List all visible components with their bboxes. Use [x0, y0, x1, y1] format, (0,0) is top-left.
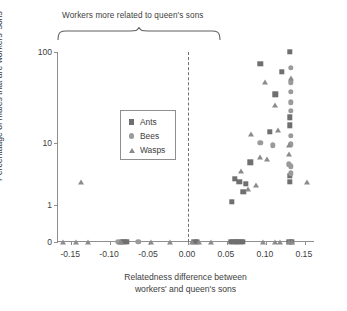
data-point-ants [243, 181, 248, 186]
y-tick-label-0: 0 [28, 237, 52, 247]
data-point-wasps [264, 156, 270, 161]
x-tick-0.15 [305, 241, 306, 245]
data-point-ants [229, 199, 234, 204]
y-tick-label-100: 100 [28, 47, 52, 57]
x-tick-label-0.10: 0.10 [257, 249, 274, 259]
y-tick-0 [54, 242, 58, 243]
data-point-wasps [288, 75, 294, 80]
data-point-ants [287, 115, 292, 120]
bracket-annotation-label: Workers more related to queen's sons [62, 11, 204, 20]
data-point-wasps [60, 240, 66, 245]
data-point-ants [267, 129, 272, 134]
x-tick-0.10 [266, 241, 267, 245]
data-point-wasps [78, 179, 84, 184]
x-tick-label-0.00: 0.00 [179, 249, 196, 259]
legend-item-ants: Ants [127, 115, 175, 129]
legend-item-wasps: Wasps [127, 143, 175, 157]
square-marker-icon [127, 119, 136, 124]
data-point-wasps [262, 80, 268, 85]
figure-scatter-plot: Workers more related to queen's sons Ant… [0, 0, 347, 311]
data-point-wasps [253, 183, 259, 188]
data-point-ants [287, 179, 292, 184]
data-point-wasps [208, 240, 214, 245]
data-point-ants [248, 160, 253, 165]
x-tick-label-0.15: 0.15 [295, 249, 312, 259]
plot-background [58, 52, 314, 241]
data-point-wasps [272, 103, 278, 108]
data-point-wasps [118, 240, 124, 245]
data-point-wasps [257, 154, 263, 159]
triangle-marker-icon [127, 148, 136, 153]
legend-item-bees: Bees [127, 129, 175, 143]
y-tick-label-10: 10 [28, 138, 52, 148]
data-point-wasps [260, 240, 266, 245]
data-point-ants [273, 92, 278, 97]
y-tick-10 [54, 143, 58, 144]
x-tick-label--0.15: -0.15 [60, 249, 80, 259]
x-tick--0.10 [110, 241, 111, 245]
data-point-wasps [277, 240, 283, 245]
data-point-wasps [196, 240, 202, 245]
y-tick-label-1: 1 [28, 200, 52, 210]
data-point-wasps [73, 240, 79, 245]
data-point-wasps [286, 143, 292, 148]
data-point-ants [279, 69, 284, 74]
data-point-wasps [189, 240, 195, 245]
data-point-wasps [289, 240, 295, 245]
curly-brace-icon [57, 27, 221, 41]
x-axis-title: Relatedness difference between workers' … [57, 272, 314, 295]
legend-box: Ants Bees Wasps [120, 110, 176, 160]
x-axis-title-line2: workers' and queen's sons [57, 284, 314, 296]
data-point-wasps [148, 240, 154, 245]
data-point-wasps [167, 240, 173, 245]
data-point-wasps [248, 131, 254, 136]
x-tick-label--0.05: -0.05 [138, 249, 158, 259]
legend-label-bees: Bees [140, 131, 159, 141]
y-axis-title: Percentaage of males that are workers' s… [0, 11, 4, 181]
data-point-bees [136, 239, 141, 244]
x-tick-label--0.10: -0.10 [99, 249, 119, 259]
circle-marker-icon [127, 133, 136, 138]
x-axis-title-line1: Relatedness difference between [57, 272, 314, 284]
data-point-ants [124, 239, 129, 244]
data-point-ants [240, 239, 245, 244]
data-point-wasps [304, 179, 310, 184]
legend-label-ants: Ants [140, 117, 157, 127]
data-point-ants [287, 49, 292, 54]
data-point-wasps [275, 128, 281, 133]
x-tick-label-0.05: 0.05 [218, 249, 235, 259]
data-point-wasps [238, 168, 244, 173]
data-point-wasps [85, 240, 91, 245]
y-tick-1 [54, 205, 58, 206]
data-point-ants [287, 123, 292, 128]
y-tick-100 [54, 52, 58, 53]
plot-area: Ants Bees Wasps [57, 52, 314, 242]
data-point-wasps [286, 152, 292, 157]
data-point-ants [258, 61, 263, 66]
reference-line-zero [188, 52, 189, 242]
data-point-wasps [245, 187, 251, 192]
legend-label-wasps: Wasps [140, 145, 165, 155]
data-point-ants [237, 179, 242, 184]
